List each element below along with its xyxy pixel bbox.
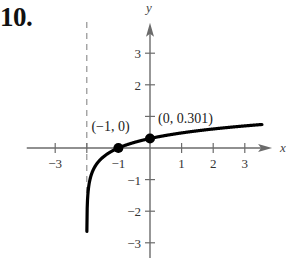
axes: xy (27, 0, 286, 258)
x-tick-label: 1 (178, 156, 185, 171)
y-tick-label: 2 (135, 78, 142, 93)
log-function-graph: xy −3−112332−1−2−3 (−1, 0)(0, 0.301) (0, 0, 296, 258)
y-tick-label: −2 (127, 204, 141, 219)
x-tick-label: −1 (111, 156, 125, 171)
y-axis-label: y (144, 0, 152, 15)
x-tick-label: −3 (48, 156, 62, 171)
x-tick-label: 3 (242, 156, 249, 171)
point-label: (0, 0.301) (158, 111, 213, 127)
point-label: (−1, 0) (91, 119, 130, 135)
point-marker (145, 133, 155, 143)
function-curve (87, 125, 262, 232)
x-tick-label: 2 (210, 156, 217, 171)
point-marker (113, 143, 123, 153)
x-axis-label: x (279, 140, 286, 155)
y-tick-label: −3 (127, 236, 141, 251)
y-tick-label: −1 (127, 173, 141, 188)
y-tick-label: 3 (135, 46, 142, 61)
